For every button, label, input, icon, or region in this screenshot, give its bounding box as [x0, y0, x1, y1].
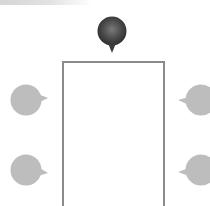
header-band — [0, 0, 92, 5]
marker-right-2[interactable] — [177, 153, 210, 187]
speech-bubble-icon — [177, 153, 210, 187]
marker-left-1[interactable] — [10, 83, 50, 117]
marker-right-1[interactable] — [177, 83, 210, 117]
speech-bubble-icon — [177, 83, 210, 117]
map-pin-icon — [96, 16, 128, 54]
marker-left-2[interactable] — [10, 153, 50, 187]
marker-head[interactable] — [96, 16, 128, 54]
table-rectangle — [62, 61, 165, 206]
speech-bubble-icon — [10, 153, 50, 187]
speech-bubble-icon — [10, 83, 50, 117]
